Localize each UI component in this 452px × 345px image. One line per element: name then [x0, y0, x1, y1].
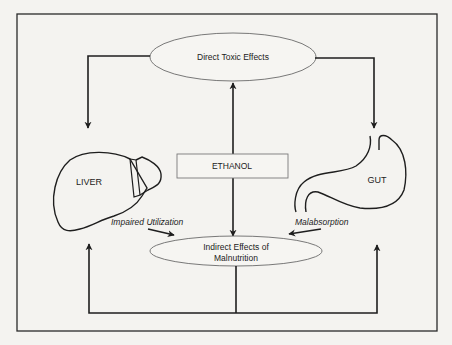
node-indirect-effects[interactable]: Indirect Effects of Malnutrition	[150, 236, 322, 266]
liver-ligament-icon	[130, 159, 140, 197]
impaired-utilization-label: Impaired Utilization	[111, 217, 184, 227]
ethanol-label: ETHANOL	[212, 161, 252, 171]
direct-toxic-effects-label: Direct Toxic Effects	[197, 52, 269, 62]
liver-label: LIVER	[76, 177, 103, 187]
node-ethanol[interactable]: ETHANOL	[177, 154, 288, 178]
edge-direct-to-gut	[315, 58, 374, 128]
edge-direct-to-liver	[88, 56, 150, 128]
indirect-effects-label-line1: Indirect Effects of	[203, 242, 269, 252]
ethanol-effects-diagram: Direct Toxic Effects ETHANOL LIVER GUT I…	[0, 0, 452, 345]
gut-label: GUT	[368, 175, 388, 185]
edge-gut-to-indirect	[289, 229, 321, 234]
malabsorption-label: Malabsorption	[295, 217, 349, 227]
node-gut[interactable]: GUT	[295, 136, 406, 213]
node-direct-toxic-effects[interactable]: Direct Toxic Effects	[150, 33, 316, 81]
edge-liver-to-indirect	[148, 229, 174, 235]
indirect-effects-label-line2: Malnutrition	[214, 253, 258, 263]
